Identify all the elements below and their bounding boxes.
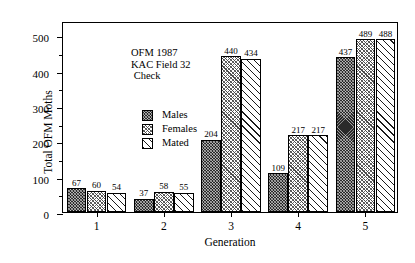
y-tick-400: 400: [57, 73, 63, 74]
x-tick-label-4: 4: [295, 220, 301, 232]
bar-value-label: 37: [139, 189, 148, 198]
bar-value-label: 54: [112, 183, 121, 192]
bar-value-label: 434: [244, 49, 258, 58]
bar-females-gen1: 60: [87, 191, 107, 212]
legend-item-females: Females: [142, 123, 197, 136]
chart-figure: Total OFM Moths OFM 1987KAC Field 32 Che…: [0, 0, 415, 263]
bar-mated-gen4: 217: [308, 135, 328, 212]
y-tick-minor-450: [59, 55, 63, 56]
bar-value-label: 488: [379, 30, 393, 39]
y-tick-300: 300: [57, 108, 63, 109]
x-tick-1: [97, 212, 98, 217]
bar-value-label: 217: [291, 126, 305, 135]
legend-swatch-females-icon: [142, 124, 153, 135]
y-tick-minor-350: [59, 90, 63, 91]
bar-value-label: 60: [92, 181, 101, 190]
legend-label-males: Males: [162, 110, 188, 121]
bar-value-label: 109: [271, 164, 285, 173]
x-tick-label-3: 3: [228, 220, 234, 232]
bar-males-gen3: 204: [201, 140, 221, 212]
legend-label-mated: Mated: [162, 138, 189, 149]
annotation-line-2: Check: [131, 70, 191, 82]
x-axis-title: Generation: [62, 236, 398, 248]
y-tick-minor-50: [59, 196, 63, 197]
y-tick-500: 500: [57, 37, 63, 38]
bar-value-label: 55: [179, 183, 188, 192]
y-tick-label-500: 500: [33, 33, 50, 44]
bar-males-gen5: 437: [336, 57, 356, 212]
chart-legend: Males Females Mated: [142, 109, 197, 151]
bar-males-gen1: 67: [67, 188, 87, 212]
y-tick-100: 100: [57, 179, 63, 180]
bar-value-label: 217: [311, 126, 325, 135]
legend-label-females: Females: [162, 124, 197, 135]
x-tick-4: [298, 212, 299, 217]
x-tick-5: [365, 212, 366, 217]
bar-value-label: 437: [339, 48, 353, 57]
y-tick-label-400: 400: [33, 68, 50, 79]
y-tick-label-300: 300: [33, 103, 50, 114]
bar-females-gen5: 489: [356, 39, 376, 212]
chart-annotation: OFM 1987KAC Field 32 Check: [131, 47, 191, 82]
x-tick-label-5: 5: [363, 220, 369, 232]
bar-females-gen3: 440: [221, 56, 241, 212]
bar-males-gen2: 37: [134, 199, 154, 212]
y-tick-label-200: 200: [33, 139, 50, 150]
plot-area: OFM 1987KAC Field 32 Check Males Females…: [62, 22, 398, 213]
bar-value-label: 58: [159, 182, 168, 191]
legend-swatch-males-icon: [142, 110, 153, 121]
bar-value-label: 440: [224, 47, 238, 56]
bar-value-label: 204: [204, 130, 218, 139]
y-tick-label-100: 100: [33, 174, 50, 185]
bar-females-gen4: 217: [288, 135, 308, 212]
y-tick-200: 200: [57, 143, 63, 144]
x-tick-label-1: 1: [94, 220, 100, 232]
x-tick-label-2: 2: [161, 220, 167, 232]
annotation-line-1: KAC Field 32: [131, 59, 191, 71]
legend-item-mated: Mated: [142, 137, 197, 150]
bar-mated-gen1: 54: [107, 193, 127, 212]
y-tick-minor-150: [59, 161, 63, 162]
x-tick-2: [164, 212, 165, 217]
y-tick-0: 0: [57, 214, 63, 215]
legend-swatch-mated-icon: [142, 138, 153, 149]
bar-mated-gen5: 488: [376, 39, 396, 212]
bar-value-label: 489: [359, 30, 373, 39]
bar-mated-gen2: 55: [174, 193, 194, 212]
annotation-line-0: OFM 1987: [131, 47, 191, 59]
bar-females-gen2: 58: [154, 192, 174, 213]
legend-item-males: Males: [142, 109, 197, 122]
bar-value-label: 67: [72, 179, 81, 188]
bar-mated-gen3: 434: [241, 59, 261, 213]
y-tick-label-0: 0: [44, 210, 50, 221]
y-tick-minor-250: [59, 126, 63, 127]
x-tick-3: [231, 212, 232, 217]
bar-males-gen4: 109: [268, 173, 288, 212]
